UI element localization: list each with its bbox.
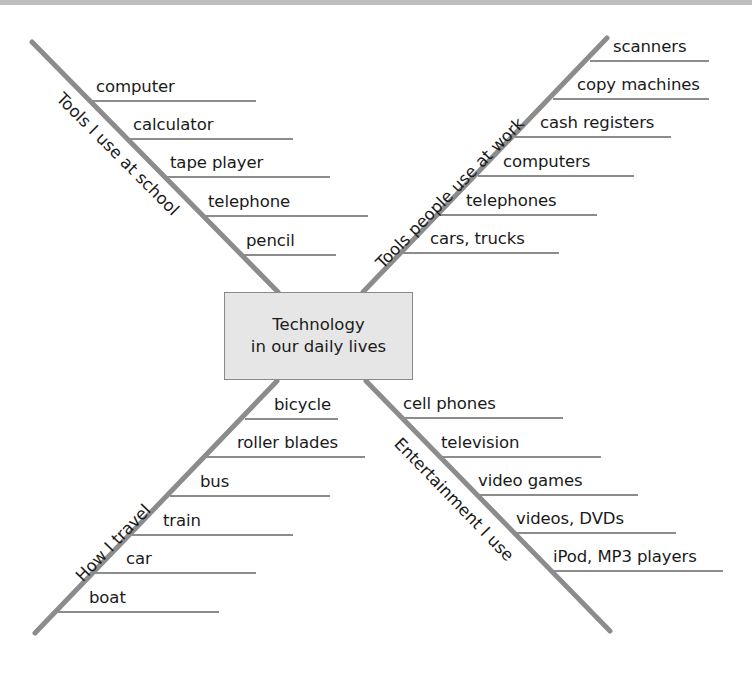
travel-item: boat: [89, 588, 126, 608]
entertainment-item: video games: [478, 471, 583, 491]
school-item: calculator: [133, 115, 213, 135]
entertainment-item: television: [441, 433, 519, 453]
school-item: tape player: [170, 153, 263, 173]
center-topic-line1: Technology: [272, 314, 364, 336]
work-item: telephones: [466, 191, 557, 211]
travel-item: car: [126, 549, 152, 569]
work-item: copy machines: [577, 75, 700, 95]
entertainment-item: iPod, MP3 players: [553, 547, 697, 567]
work-item: cash registers: [540, 113, 654, 133]
center-topic-box: Technology in our daily lives: [224, 292, 413, 380]
school-item: pencil: [246, 231, 295, 251]
school-item: computer: [96, 77, 175, 97]
travel-item: bicycle: [274, 395, 331, 415]
entertainment-item: videos, DVDs: [516, 509, 624, 529]
school-item: telephone: [208, 192, 290, 212]
center-topic-line2: in our daily lives: [251, 336, 386, 358]
travel-item: roller blades: [237, 433, 338, 453]
entertainment-item: cell phones: [403, 394, 496, 414]
work-item: computers: [503, 152, 590, 172]
travel-item: train: [163, 511, 201, 531]
travel-item: bus: [200, 472, 229, 492]
work-item: cars, trucks: [430, 229, 525, 249]
work-item: scanners: [613, 37, 686, 57]
travel-diagonal: [35, 381, 277, 633]
